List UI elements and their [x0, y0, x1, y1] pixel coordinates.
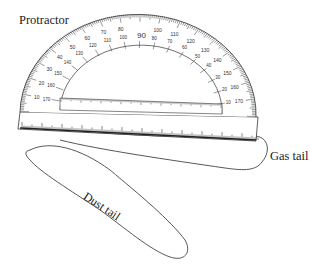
protractor-label: Protractor [19, 14, 69, 27]
svg-text:30: 30 [47, 66, 53, 72]
svg-text:120: 120 [187, 38, 196, 44]
svg-text:80: 80 [118, 26, 124, 32]
svg-text:80: 80 [152, 36, 158, 41]
svg-text:140: 140 [64, 60, 72, 65]
svg-text:40: 40 [57, 54, 63, 60]
svg-text:70: 70 [101, 29, 107, 35]
protractor-arc: 1020304050607080100110120130140150160170… [20, 14, 256, 117]
svg-text:20: 20 [222, 87, 228, 92]
svg-text:100: 100 [154, 27, 163, 33]
protractor-center-label: 90 [137, 31, 146, 40]
protractor-ruler [18, 112, 258, 141]
svg-text:60: 60 [182, 45, 188, 50]
svg-text:170: 170 [43, 97, 51, 102]
svg-text:50: 50 [70, 44, 76, 50]
svg-text:160: 160 [230, 84, 239, 90]
svg-text:160: 160 [47, 83, 55, 88]
svg-text:100: 100 [119, 35, 127, 40]
svg-text:150: 150 [54, 71, 62, 76]
svg-text:40: 40 [206, 63, 212, 68]
svg-text:30: 30 [215, 75, 221, 80]
svg-text:50: 50 [195, 54, 201, 59]
diagram-canvas: 1020304050607080100110120130140150160170… [0, 0, 310, 272]
svg-text:70: 70 [167, 39, 173, 44]
diagram-svg: 1020304050607080100110120130140150160170… [0, 0, 310, 272]
svg-text:110: 110 [104, 38, 112, 43]
svg-text:10: 10 [34, 94, 40, 100]
svg-text:170: 170 [235, 98, 244, 104]
svg-text:150: 150 [223, 70, 232, 76]
svg-text:10: 10 [226, 100, 232, 105]
svg-text:110: 110 [171, 31, 179, 37]
svg-text:60: 60 [85, 35, 91, 41]
svg-text:130: 130 [201, 47, 210, 53]
svg-text:20: 20 [39, 80, 45, 86]
svg-text:130: 130 [75, 51, 83, 56]
svg-text:120: 120 [89, 43, 97, 48]
svg-text:140: 140 [213, 57, 222, 63]
gas-tail-label: Gas tail [270, 150, 309, 163]
